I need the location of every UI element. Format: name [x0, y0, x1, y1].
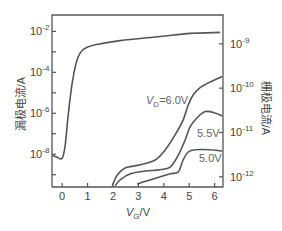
x-tick-label: 6 [212, 190, 218, 202]
y-left-tick-label: 10-2 [30, 23, 50, 37]
y-left-tick-label: 10-6 [30, 105, 50, 119]
x-tick-label: 5 [186, 190, 192, 202]
y-left-tick-label: 10-8 [30, 146, 50, 160]
y-right-tick-label: 10-10 [230, 80, 254, 94]
y-left-axis-title: 漏极电流/A [14, 76, 27, 131]
chart: 0123456 10-210-410-610-8 10-910-1010-111… [0, 0, 282, 231]
series-label-5.0V: 5.0V [199, 152, 222, 164]
series-label-6.0V: VD=6.0V [146, 94, 189, 109]
plot-frame [52, 15, 223, 187]
y-right-axis-ticks: 10-910-1010-1110-12 [219, 36, 254, 183]
y-left-tick-label: 10-4 [30, 64, 50, 78]
x-tick-label: 3 [135, 190, 141, 202]
plot-axes [52, 15, 223, 187]
series-label-5.5V: 5.5V [197, 127, 220, 139]
curve-drain-current [52, 32, 220, 159]
y-right-tick-label: 10-11 [230, 124, 254, 138]
x-tick-label: 1 [85, 190, 91, 202]
x-tick-label: 0 [59, 190, 65, 202]
x-tick-label: 2 [110, 190, 116, 202]
x-axis-ticks: 0123456 [59, 183, 218, 202]
y-right-axis-title: 栅极电流/A [260, 81, 273, 136]
y-right-tick-label: 10-12 [230, 169, 254, 183]
y-right-tick-label: 10-9 [230, 36, 250, 50]
curves [52, 32, 222, 185]
x-tick-label: 4 [161, 190, 167, 202]
x-axis-title: VG/V [126, 206, 151, 221]
